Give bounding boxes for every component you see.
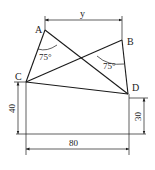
segment-BD	[122, 40, 128, 94]
segment-CD	[26, 82, 128, 94]
point-D-label: D	[132, 82, 139, 93]
angle-A-label: 75°	[39, 52, 52, 62]
dimension-40-label: 40	[7, 104, 17, 114]
point-B-label: B	[127, 36, 134, 47]
dimension-30-label: 30	[133, 112, 143, 122]
angle-arc-A	[38, 45, 57, 50]
point-C-label: C	[15, 71, 22, 82]
point-A-label: A	[35, 24, 43, 35]
dimension-80-label: 80	[69, 138, 79, 148]
dimension-y-label: y	[80, 8, 85, 19]
geometry-diagram: y 40 30 80 75° 75° A B C D	[0, 0, 155, 170]
angle-B-label: 75°	[103, 61, 116, 71]
